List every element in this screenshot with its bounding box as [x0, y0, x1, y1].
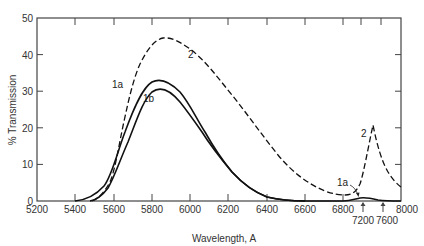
label-1a: 1a: [112, 79, 124, 90]
y-tick-30: 30: [22, 86, 34, 97]
curve-1b: [90, 89, 305, 201]
curve-2: [92, 38, 401, 201]
y-tick-labels: 0 10 20 30 40 50: [22, 13, 34, 207]
x-tick-8000: 8000: [396, 204, 419, 215]
x-tick-labels: 5200 5400 5600 5800 6000 6200 6400 6600 …: [26, 204, 419, 226]
x-tick-6400: 6400: [256, 204, 279, 215]
plot-frame: [37, 18, 401, 201]
label-2: 2: [188, 49, 194, 60]
y-tick-50: 50: [22, 13, 34, 24]
y-axis-title: % Transmission: [7, 75, 18, 146]
y-axis: [37, 55, 401, 165]
y-tick-20: 20: [22, 123, 34, 134]
curve-1a: [75, 80, 401, 201]
y-tick-40: 40: [22, 50, 34, 61]
x-tick-5200: 5200: [26, 204, 49, 215]
x-tick-5800: 5800: [141, 204, 164, 215]
y-tick-10: 10: [22, 159, 34, 170]
x-tick-6000: 6000: [179, 204, 202, 215]
label-1b: 1b: [143, 93, 155, 104]
label-2-secondary: 2: [361, 128, 367, 139]
x-axis-title: Wavelength, A: [192, 233, 256, 244]
transmission-chart: 0 10 20 30 40 50 5200 5400 5600 5800 600…: [0, 0, 424, 246]
x-tick-7600: 7600: [376, 215, 399, 226]
label-1a-secondary: 1a: [337, 177, 349, 188]
x-tick-5600: 5600: [103, 204, 126, 215]
x-tick-7200: 7200: [352, 215, 375, 226]
x-tick-6800: 6800: [332, 204, 355, 215]
x-tick-5400: 5400: [64, 204, 87, 215]
x-tick-6200: 6200: [217, 204, 240, 215]
x-tick-6600: 6600: [294, 204, 317, 215]
